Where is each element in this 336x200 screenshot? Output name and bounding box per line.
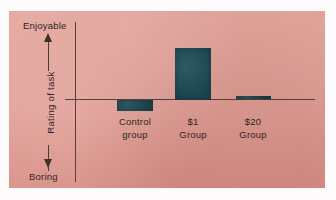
bar-control-group: [117, 100, 153, 111]
bar-one-dollar-group: [175, 48, 211, 100]
chart-panel: Enjoyable Boring Rating of task Control …: [9, 11, 325, 188]
bar-chart-figure: Enjoyable Boring Rating of task Control …: [0, 0, 336, 200]
category-label-twenty-dollar-group: $20 Group: [215, 115, 291, 141]
plot-area: [9, 11, 325, 188]
bar-twenty-dollar-group: [236, 96, 271, 99]
